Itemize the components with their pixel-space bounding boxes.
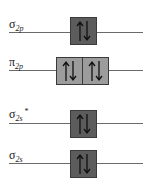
label-superscript: * xyxy=(25,107,29,116)
electron-pair-arrows-icon xyxy=(75,20,93,42)
orbital-box xyxy=(70,110,97,138)
orbital-label: σ2p xyxy=(9,18,23,33)
label-subscript: 2s xyxy=(15,155,22,164)
orbital-box xyxy=(82,57,109,85)
orbital-box xyxy=(70,17,97,45)
orbital-label: σ2s xyxy=(9,149,23,164)
label-subscript: 2p xyxy=(15,24,23,33)
orbital-box xyxy=(70,150,97,178)
electron-pair-arrows-icon xyxy=(75,113,93,135)
orbital-label: σ2s* xyxy=(9,108,29,123)
electron-pair-arrows-icon xyxy=(61,60,79,82)
label-subscript: 2s xyxy=(15,114,22,123)
orbital-label: π2p xyxy=(9,56,23,71)
electron-pair-arrows-icon xyxy=(87,60,105,82)
electron-pair-arrows-icon xyxy=(75,153,93,175)
orbital-box xyxy=(56,57,83,85)
label-subscript: 2p xyxy=(15,62,23,71)
